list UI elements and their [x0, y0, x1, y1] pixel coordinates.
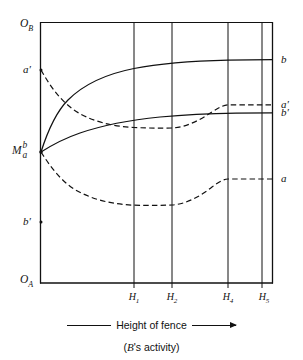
- x-tick-label-h4: H4: [223, 292, 234, 302]
- caption-rule-left: [67, 325, 111, 326]
- chart-canvas: [0, 0, 303, 360]
- figure-root: OB OA a′ M b a b′ b a′ b′ a H1 H2 H4 H5 …: [0, 0, 303, 360]
- curve-label-left-b-prime: b′: [23, 216, 31, 227]
- x-tick-label-h1: H1: [129, 292, 140, 302]
- subcaption-actor: B: [127, 341, 134, 353]
- x-tick-label-h2: H2: [167, 292, 178, 302]
- curve-label-left-m: M: [12, 145, 22, 157]
- curve-label-right-b-prime: b′: [281, 107, 289, 118]
- x-axis-caption-text: Height of fence: [116, 319, 187, 331]
- curve-b-solid: [41, 60, 272, 152]
- curve-label-left-m-cluster: M b a: [12, 141, 27, 161]
- origin-label-top: OB: [20, 18, 33, 30]
- x-tick-h4-subscript: 4: [230, 297, 234, 305]
- curve-a-prime-dashed: [41, 70, 272, 128]
- origin-bottom-subscript: A: [28, 280, 33, 289]
- subcaption-suffix: 's activity): [134, 341, 180, 353]
- x-axis-subcaption: (B's activity): [0, 341, 303, 353]
- curve-b-prime-dashed: [41, 152, 272, 205]
- curve-label-left-m-lower: a: [23, 151, 28, 161]
- m-stack: b a: [23, 141, 28, 161]
- curve-label-right-b: b: [281, 54, 287, 65]
- x-tick-label-h5: H5: [259, 292, 270, 302]
- curve-a-solid: [41, 113, 272, 152]
- x-tick-h5-subscript: 5: [266, 297, 270, 305]
- curve-label-left-a-prime: a′: [23, 64, 31, 75]
- x-tick-h2-subscript: 2: [174, 297, 178, 305]
- origin-label-bottom: OA: [20, 274, 33, 286]
- origin-top-subscript: B: [28, 24, 33, 33]
- endpoint-a-prime-start: [40, 69, 43, 72]
- plot-frame: [40, 22, 273, 284]
- x-tick-h1-subscript: 1: [136, 297, 140, 305]
- caption-arrow-right-icon: [192, 325, 236, 326]
- x-axis-caption-row: Height of fence: [0, 316, 303, 334]
- curve-label-right-a: a: [281, 173, 287, 184]
- x-axis-caption-block: Height of fence (B's activity): [0, 316, 303, 353]
